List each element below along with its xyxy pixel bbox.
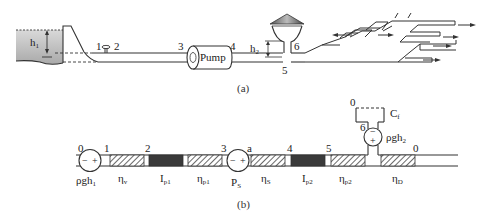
- node-2: 2: [145, 142, 151, 154]
- rho-g-h1-label: ρgh1: [76, 174, 97, 188]
- node-1-label: 1: [96, 40, 102, 52]
- water-distribution-diagram: h1 1 2 3 Pump 4: [0, 0, 490, 216]
- node-5: 5: [326, 142, 332, 154]
- ps-label: PS: [231, 176, 241, 190]
- svg-text:−: −: [82, 155, 88, 166]
- node-5-label: 5: [282, 64, 288, 76]
- valve-icon: [102, 45, 110, 53]
- rho-g-h2-label: ρgh2: [386, 131, 407, 145]
- node-4-label: 4: [230, 40, 236, 52]
- capacitor-cf: [356, 108, 384, 122]
- node-6: 6: [360, 121, 366, 133]
- resistor-eta-s: [251, 155, 285, 166]
- node-0-right: 0: [413, 142, 419, 154]
- node-3: 3: [221, 142, 227, 154]
- resistor-eta-p1: [188, 155, 222, 166]
- eta-v-label: ηv: [118, 172, 128, 186]
- h2-label: h2: [250, 42, 260, 56]
- inductor-i-p2: [291, 155, 325, 166]
- source-pump-ps: − + PS: [227, 150, 249, 191]
- node-0-top: 0: [350, 96, 356, 108]
- node-0-left: 0: [78, 142, 84, 154]
- pipe-inlet: [92, 53, 188, 62]
- tower-branch: − + ρgh2 6 Cf 0: [350, 96, 407, 157]
- svg-text:+: +: [370, 135, 376, 146]
- svg-text:−: −: [230, 155, 236, 166]
- eta-p2-label: ηp2: [339, 172, 352, 186]
- inductor-i-p1: [149, 155, 183, 166]
- svg-text:+: +: [92, 155, 98, 166]
- figure-b: − + ρgh1 0 1 ηv 2 Ip1 ηp1 3 − + PS a ηS …: [76, 96, 458, 211]
- node-4: 4: [287, 142, 293, 154]
- figure-a: h1 1 2 3 Pump 4: [16, 13, 476, 95]
- node-6-label: 6: [294, 40, 300, 52]
- node-2-label: 2: [114, 40, 120, 52]
- pump-label: Pump: [200, 51, 226, 63]
- eta-s-label: ηS: [261, 172, 271, 186]
- reservoir: h1: [16, 26, 98, 64]
- svg-text:+: +: [240, 155, 246, 166]
- node-a: a: [247, 142, 252, 154]
- resistor-eta-v: [110, 155, 144, 166]
- resistor-eta-p2: [331, 155, 365, 166]
- i-p1-label: Ip1: [160, 172, 171, 186]
- cf-label: Cf: [390, 107, 400, 121]
- eta-d-label: ηD: [392, 172, 403, 186]
- source-rho-g-h1: − + ρgh1: [76, 150, 101, 189]
- eta-p1-label: ηp1: [197, 172, 210, 186]
- caption-a: (a): [237, 82, 250, 95]
- pump: Pump: [187, 46, 232, 69]
- i-p2-label: Ip2: [302, 172, 313, 186]
- resistor-eta-d: [381, 155, 415, 166]
- node-1: 1: [104, 142, 110, 154]
- node-3-label: 3: [178, 40, 184, 52]
- distribution-network: [305, 13, 472, 62]
- caption-b: (b): [237, 198, 250, 211]
